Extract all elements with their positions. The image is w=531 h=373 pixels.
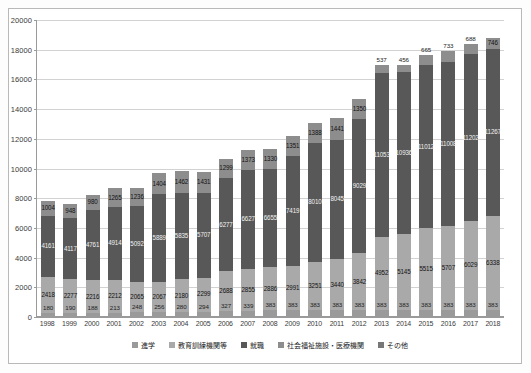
legend-label: その他 <box>387 340 408 350</box>
bar-segment-second: 6338 <box>486 216 500 310</box>
x-axis-tick-label: 2003 <box>149 317 169 327</box>
x-axis-tick-label: 1998 <box>37 317 57 327</box>
bar-column: 123650922065248 <box>127 20 147 316</box>
bar-value-label: 6277 <box>219 221 232 228</box>
bar-segment-second: 5515 <box>419 228 433 310</box>
bar-column: 98047612216188 <box>83 20 103 316</box>
legend-swatch-icon <box>378 342 384 348</box>
y-axis-tick-label: 12000 <box>11 134 32 143</box>
legend-swatch-icon <box>132 342 138 348</box>
bar-segment-third: 6277 <box>219 178 233 271</box>
x-axis-tick-label: 2006 <box>215 317 235 327</box>
legend-item[interactable]: 就職 <box>241 340 264 350</box>
bar-segment-top: 980 <box>86 195 100 210</box>
bar-value-label: 6627 <box>242 216 255 223</box>
bar-value-label: 9029 <box>353 183 366 190</box>
x-axis-tick-label: 1999 <box>59 317 79 327</box>
bar-value-label: 746 <box>488 40 498 47</box>
bar-value-label: 1236 <box>130 194 143 201</box>
bar-segment-second: 4952 <box>375 237 389 311</box>
bar-segment-bottom: 383 <box>464 310 478 316</box>
bar-segment-top: 1431 <box>197 172 211 193</box>
bar-value-label: 2855 <box>242 287 255 294</box>
bar-value-label: 5145 <box>397 269 410 276</box>
x-axis-tick-label: 2001 <box>104 317 124 327</box>
bar-column: 94841172277190 <box>60 20 80 316</box>
bar-value-label: 190 <box>65 305 75 311</box>
bar-value-label: 294 <box>199 304 209 310</box>
bar-segment-third: 8045 <box>330 140 344 259</box>
bar-value-label: 339 <box>243 303 253 309</box>
bar-segment-bottom: 383 <box>286 310 300 316</box>
bar-segment-third: 11202 <box>464 54 478 220</box>
bar-value-label: 327 <box>221 303 231 309</box>
x-axis-tick-label: 2007 <box>238 317 258 327</box>
bar-value-label: 180 <box>43 305 53 311</box>
bar-value-label: 4952 <box>375 270 388 277</box>
bar-value-label: 4161 <box>41 243 54 250</box>
bar-column: 688112026029383 <box>461 20 481 316</box>
bar-value-label: 6029 <box>464 262 477 269</box>
bar-segment-third: 11267 <box>486 49 500 216</box>
bar-value-label: 2212 <box>108 293 121 300</box>
bar-segment-top: 1441 <box>330 118 344 139</box>
bar-value-label: 6338 <box>486 260 499 267</box>
chart-figure: 0200040006000800010000120001400016000180… <box>0 0 531 373</box>
bar-value-label: 6655 <box>264 215 277 222</box>
chart-legend: 進学教育訓練機関等就職社会福祉施設・医療機関その他 <box>36 337 504 353</box>
x-axis-tick-label: 2017 <box>460 317 480 327</box>
bar-segment-bottom: 327 <box>219 311 233 316</box>
bar-value-label: 688 <box>466 36 476 42</box>
bar-value-label: 948 <box>65 208 75 215</box>
bar-column: 129962772688327 <box>216 20 236 316</box>
x-axis-tick-label: 2016 <box>438 317 458 327</box>
bar-value-label: 11267 <box>485 129 501 136</box>
bar-value-label: 8045 <box>330 196 343 203</box>
bar-value-label: 665 <box>421 47 431 53</box>
x-axis-tick-label: 2005 <box>193 317 213 327</box>
bar-value-label: 1350 <box>353 106 366 113</box>
bar-value-label: 1373 <box>242 157 255 164</box>
legend-item[interactable]: 社会福祉施設・医療機関 <box>278 340 364 350</box>
bar-column: 665110125515383 <box>416 20 436 316</box>
bar-segment-top: 948 <box>63 204 77 218</box>
bar-value-label: 5707 <box>197 232 210 239</box>
bar-segment-bottom: 383 <box>308 310 322 316</box>
bar-value-label: 1004 <box>41 205 54 212</box>
bar-segment-bottom: 383 <box>375 310 389 316</box>
bar-column: 135174192991383 <box>283 20 303 316</box>
bar-segment-top: 1004 <box>41 201 55 216</box>
legend-label: 進学 <box>141 340 155 350</box>
bar-segment-bottom: 180 <box>41 313 55 316</box>
bar-column: 144180453440383 <box>327 20 347 316</box>
x-axis-tick-label: 2002 <box>126 317 146 327</box>
legend-item[interactable]: 進学 <box>132 340 155 350</box>
y-axis-tick-label: 14000 <box>11 105 32 114</box>
x-axis-tick-label: 2009 <box>282 317 302 327</box>
x-axis-tick-label: 2015 <box>416 317 436 327</box>
bar-segment-second: 6029 <box>464 221 478 311</box>
legend-item[interactable]: その他 <box>378 340 408 350</box>
bar-value-label: 383 <box>310 302 320 308</box>
bar-value-label: 5889 <box>153 235 166 242</box>
bar-value-label: 383 <box>354 302 364 308</box>
bar-value-label: 8010 <box>308 199 321 206</box>
legend-item[interactable]: 教育訓練機関等 <box>169 340 227 350</box>
bar-segment-third: 11008 <box>441 62 455 225</box>
bar-column: 137366272855339 <box>238 20 258 316</box>
bar-segment-third: 4761 <box>86 210 100 281</box>
bar-segment-third: 11012 <box>419 65 433 229</box>
bar-segment-top: 1351 <box>286 136 300 156</box>
bar-value-label: 5707 <box>442 265 455 272</box>
bar-value-label: 11008 <box>440 141 456 148</box>
bar-segment-third: 7419 <box>286 156 300 266</box>
bar-segment-bottom: 294 <box>197 312 211 316</box>
bar-value-label: 383 <box>332 302 342 308</box>
bar-column: 143157072299294 <box>194 20 214 316</box>
bar-value-label: 2180 <box>175 292 188 299</box>
y-axis-tick-label: 0 <box>28 313 32 322</box>
bar-value-label: 2065 <box>130 294 143 301</box>
bar-column: 133066552886383 <box>260 20 280 316</box>
x-axis-tick-label: 2018 <box>483 317 503 327</box>
bar-segment-top: 1299 <box>219 159 233 178</box>
